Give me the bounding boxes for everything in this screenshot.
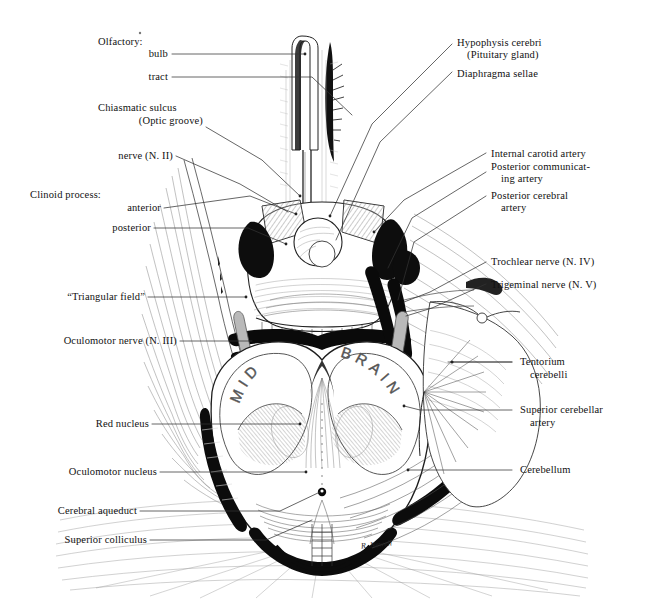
label-cerebral-aqueduct: Cerebral aqueduct: [0, 505, 137, 518]
label-hypophysis-line1: Hypophysis cerebri: [457, 37, 542, 50]
label-hypophysis-line2: (Pituitary gland): [467, 49, 539, 62]
label-olfactory-heading: Olfactory:: [0, 36, 269, 49]
label-posterior-cerebral-line2: artery: [501, 202, 526, 215]
label-internal-carotid-artery: Internal carotid artery: [491, 148, 586, 161]
label-oculomotor-nucleus: Oculomotor nucleus: [0, 466, 157, 479]
label-olfactory-tract: tract: [0, 71, 168, 84]
anatomical-figure-page: MID BRAIN Olfactory: bulb tract Chiasmat…: [0, 0, 645, 599]
label-triangular-field: “Triangular field”: [0, 291, 145, 304]
label-superior-colliculus: Superior colliculus: [0, 534, 147, 547]
paper-speck: [139, 32, 141, 34]
label-clinoid-posterior: posterior: [0, 222, 151, 235]
sella-turcica-region: [238, 200, 420, 337]
label-red-nucleus: Red nucleus: [0, 418, 149, 431]
label-posterior-communicating-line2: ing artery: [501, 173, 543, 186]
label-tentorium-line1: Tentorium: [520, 356, 565, 369]
label-posterior-cerebral-line1: Posterior cerebral: [491, 190, 568, 203]
label-posterior-communicating-line1: Posterior communicat-: [491, 161, 590, 174]
label-chiasmatic-sulcus-line1: Chiasmatic sulcus: [0, 102, 299, 115]
leader-optic-nerve: [176, 156, 288, 212]
label-superior-cerebellar-line1: Superior cerebellar: [520, 404, 603, 417]
olfactory-structures: [280, 36, 344, 206]
label-chiasmatic-sulcus-line2: (Optic groove): [0, 115, 203, 128]
label-clinoid-heading: Clinoid process:: [0, 189, 190, 202]
leader-hypophysis: [330, 44, 452, 216]
label-tentorium-line2: cerebelli: [530, 369, 568, 382]
label-superior-cerebellar-line2: artery: [530, 417, 555, 430]
label-clinoid-anterior: anterior: [0, 202, 161, 215]
label-optic-nerve: nerve (N. II): [0, 150, 173, 163]
label-olfactory-bulb: bulb: [0, 48, 168, 61]
label-trigeminal-nerve: Trigeminal nerve (N. V): [491, 279, 597, 292]
label-oculomotor-nerve: Oculomotor nerve (N. III): [0, 335, 177, 348]
arachnoid-marks: [218, 256, 223, 294]
hypophysis-circle: [294, 218, 342, 267]
label-cerebellum: Cerebellum: [520, 464, 570, 477]
label-diaphragma-sellae: Diaphragma sellae: [457, 68, 538, 81]
label-trochlear-nerve: Trochlear nerve (N. IV): [491, 256, 594, 269]
